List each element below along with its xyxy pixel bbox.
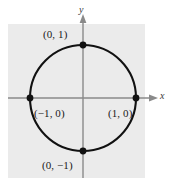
point-marker-top bbox=[80, 42, 87, 49]
point-label-bottom: (0, −1) bbox=[42, 160, 73, 171]
point-marker-right bbox=[133, 95, 140, 102]
x-axis-label: x bbox=[160, 91, 164, 101]
y-axis-arrow-icon bbox=[80, 14, 87, 23]
point-label-left: (−1, 0) bbox=[34, 108, 65, 119]
point-label-right: (1, 0) bbox=[108, 108, 132, 119]
point-marker-bottom bbox=[80, 148, 87, 155]
x-axis-arrow-icon bbox=[149, 95, 158, 102]
unit-circle-figure: (0, 1) (1, 0) (−1, 0) (0, −1) y x bbox=[0, 0, 173, 184]
point-marker-left bbox=[27, 95, 34, 102]
y-axis-label: y bbox=[79, 5, 83, 15]
point-label-top: (0, 1) bbox=[43, 29, 67, 40]
plot-canvas bbox=[0, 0, 173, 184]
